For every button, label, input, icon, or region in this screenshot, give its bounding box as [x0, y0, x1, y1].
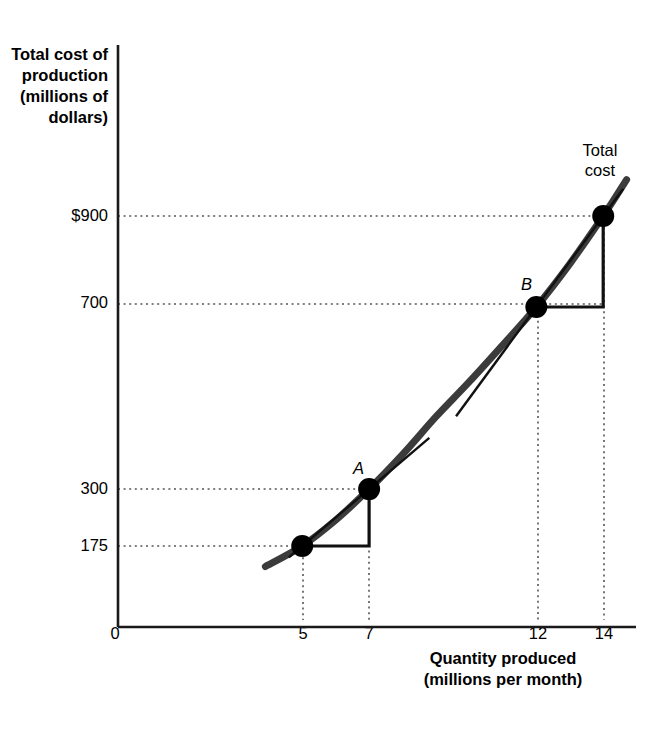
data-point-b — [525, 296, 547, 318]
data-point-14-900 — [592, 205, 614, 227]
total-cost-curve — [265, 180, 626, 567]
plot-area — [0, 0, 649, 738]
data-point-5-175 — [291, 535, 313, 557]
data-point-a — [358, 478, 380, 500]
cost-curve-chart: Total cost of production (millions of do… — [0, 0, 649, 738]
